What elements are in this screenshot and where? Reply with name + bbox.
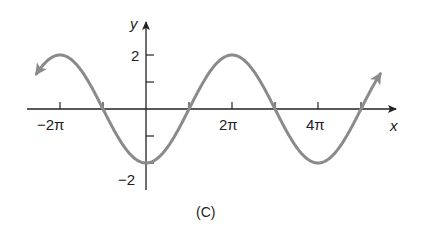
caption: (C): [196, 205, 215, 219]
x-tick-label-neg2pi: −2π: [37, 117, 64, 132]
x-tick-label-4pi: 4π: [306, 117, 325, 132]
x-tick-label-2pi: 2π: [219, 117, 238, 132]
y-axis-label: y: [130, 16, 138, 31]
x-axis-label: x: [390, 118, 398, 133]
y-tick-label-neg2: −2: [118, 172, 135, 187]
x-ticks: [60, 102, 361, 109]
chart-plot: [0, 0, 428, 228]
y-tick-label-2: 2: [131, 48, 139, 63]
